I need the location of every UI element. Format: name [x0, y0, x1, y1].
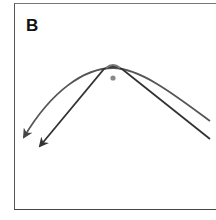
center-dot — [110, 75, 115, 80]
diagram-canvas — [0, 0, 216, 220]
straight-arrow — [40, 67, 210, 147]
curved-arrow — [24, 68, 210, 137]
